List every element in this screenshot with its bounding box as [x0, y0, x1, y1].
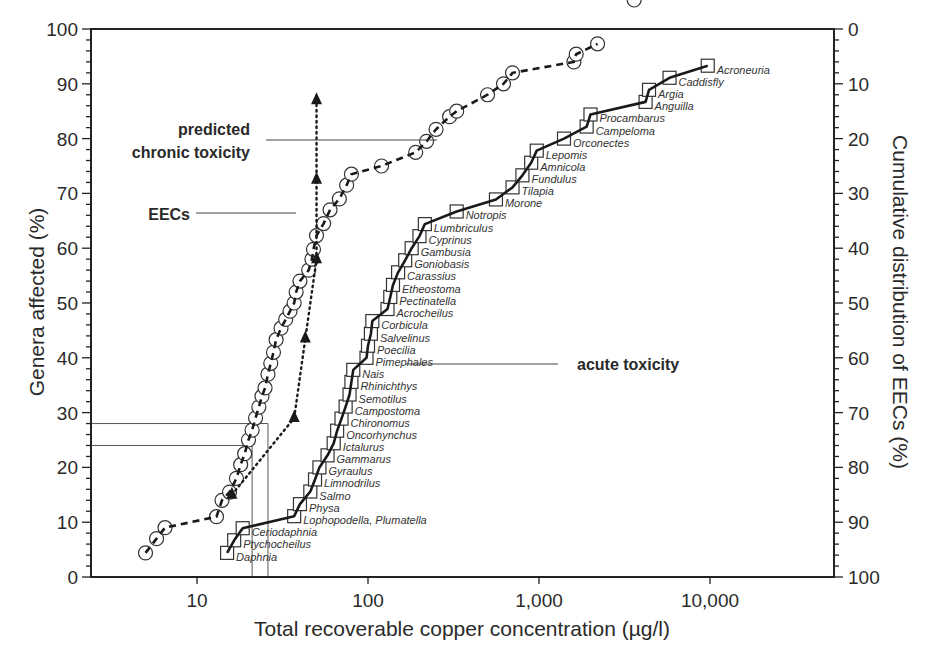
genus-label: Rhinichthys — [360, 380, 417, 392]
y2-tick-label: 90 — [848, 512, 869, 533]
annotation-predicted-line2: chronic toxicity — [132, 144, 250, 161]
acute-curve — [227, 66, 708, 553]
genus-label: Anguilla — [654, 100, 694, 112]
y-tick-label: 70 — [57, 183, 78, 204]
genus-label: Oncorhynchus — [346, 429, 417, 441]
circle-marker — [627, 0, 641, 7]
genus-label: Poecilia — [377, 344, 416, 356]
genus-label: Limnodrilus — [324, 477, 381, 489]
genus-label: Fundulus — [531, 173, 577, 185]
triangle-marker — [289, 410, 300, 422]
genus-label: Salvelinus — [380, 332, 431, 344]
circle-marker — [238, 447, 252, 461]
genus-label: Ictalurus — [343, 441, 385, 453]
genus-label: Semotilus — [359, 393, 408, 405]
annotation-eecs: EECs — [148, 206, 190, 223]
y-tick-label: 50 — [57, 293, 78, 314]
genus-label: Etheostoma — [402, 283, 461, 295]
x-tick-label: 100 — [352, 590, 384, 611]
genus-label: Argia — [657, 88, 684, 100]
y-tick-label: 30 — [57, 403, 78, 424]
copper-toxicity-chart: DaphniaPtychocheilusCeriodaphniaLophopod… — [0, 0, 927, 666]
x-tick-label: 1,000 — [515, 590, 563, 611]
right-y-axis: 0102030405060708090100 — [834, 19, 880, 588]
genus-label: Gambusia — [421, 246, 471, 258]
genus-label: Physa — [309, 502, 340, 514]
genus-label: Corbicula — [381, 319, 427, 331]
y-tick-label: 80 — [57, 129, 78, 150]
y-tick-label: 0 — [67, 567, 78, 588]
annotation-predicted-line1: predicted — [178, 121, 250, 138]
y-tick-label: 20 — [57, 457, 78, 478]
genus-label: Chironomus — [351, 417, 411, 429]
y2-tick-label: 20 — [848, 129, 869, 150]
y2-tick-label: 50 — [848, 293, 869, 314]
genus-label: Lepomis — [546, 149, 588, 161]
genus-label: Goniobasis — [414, 258, 470, 270]
y2-tick-label: 100 — [848, 567, 880, 588]
genus-label: Notropis — [466, 209, 507, 221]
genus-label: Pimephales — [375, 356, 433, 368]
y-tick-label: 90 — [57, 74, 78, 95]
genus-label: Morone — [505, 197, 542, 209]
genus-label: Cyprinus — [428, 234, 472, 246]
y2-tick-label: 80 — [848, 457, 869, 478]
genus-label: Procambarus — [599, 112, 665, 124]
genus-label: Acrocheilus — [395, 307, 453, 319]
genus-label: Gyraulus — [328, 465, 373, 477]
triangle-marker — [300, 331, 311, 343]
genus-label: Caddisfly — [679, 76, 726, 88]
genus-label: Campostoma — [355, 405, 420, 417]
y-tick-label: 40 — [57, 348, 78, 369]
triangle-marker — [311, 92, 322, 104]
genus-label: Ptychocheilus — [243, 538, 311, 550]
annotation-acute: acute toxicity — [577, 356, 679, 373]
y-tick-label: 100 — [46, 19, 78, 40]
y-axis-title: Genera affected (%) — [25, 208, 48, 397]
genus-label: Nais — [362, 368, 385, 380]
genus-label: Salmo — [319, 490, 350, 502]
y2-axis-title: Cumulative distribution of EECs (%) — [889, 135, 912, 469]
triangle-marker — [311, 172, 322, 184]
genus-label: Campeloma — [596, 125, 655, 137]
y2-tick-label: 70 — [848, 403, 869, 424]
genus-label: Pectinatella — [399, 295, 456, 307]
genus-label: Orconectes — [573, 137, 630, 149]
x-tick-label: 10,000 — [681, 590, 739, 611]
series-acute-toxicity: DaphniaPtychocheilusCeriodaphniaLophopod… — [221, 59, 770, 563]
genus-label: Lophopodella, Plumatella — [303, 514, 427, 526]
y2-tick-label: 30 — [848, 183, 869, 204]
y2-tick-label: 10 — [848, 74, 869, 95]
genus-label: Daphnia — [236, 551, 277, 563]
genus-label: Carassius — [407, 270, 456, 282]
x-axis: 101001,00010,000 — [186, 577, 739, 611]
left-y-axis: 0102030405060708090100 — [46, 19, 91, 588]
circle-marker — [229, 471, 243, 485]
y2-tick-label: 0 — [848, 19, 859, 40]
x-axis-title: Total recoverable copper concentration (… — [254, 617, 670, 640]
y-tick-label: 60 — [57, 238, 78, 259]
y-tick-label: 10 — [57, 512, 78, 533]
y2-tick-label: 40 — [848, 238, 869, 259]
genus-label: Amnicola — [539, 161, 585, 173]
plot-area: DaphniaPtychocheilusCeriodaphniaLophopod… — [91, 0, 770, 577]
x-tick-label: 10 — [186, 590, 207, 611]
genus-label: Acroneuria — [716, 64, 770, 76]
genus-label: Ceriodaphnia — [252, 526, 317, 538]
y2-tick-label: 60 — [848, 348, 869, 369]
genus-label: Tilapia — [522, 185, 554, 197]
genus-label: Lumbriculus — [434, 222, 494, 234]
genus-label: Gammarus — [337, 453, 392, 465]
